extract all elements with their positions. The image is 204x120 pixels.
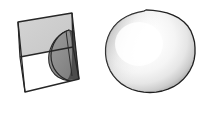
panel-cube-with-spherical-wedge <box>18 13 79 92</box>
sphere-highlight <box>115 22 163 66</box>
figure-svg <box>0 0 204 120</box>
figure-canvas <box>0 0 204 120</box>
panel-shaded-sphere <box>106 10 195 93</box>
